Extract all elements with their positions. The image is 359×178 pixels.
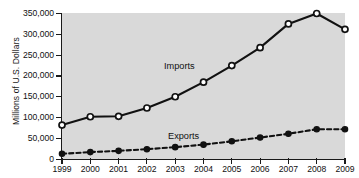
series-label-imports: Imports <box>164 61 195 71</box>
series-markers-imports <box>59 11 348 129</box>
data-point <box>229 63 235 69</box>
data-point <box>201 142 206 147</box>
data-point <box>173 145 178 150</box>
series-line-imports <box>62 14 345 126</box>
y-axis-tick <box>56 96 62 97</box>
data-point <box>59 122 65 128</box>
data-point <box>201 79 207 85</box>
y-axis-tick <box>56 117 62 118</box>
data-point <box>285 21 291 27</box>
data-point <box>88 150 93 155</box>
data-point <box>172 94 178 100</box>
data-point <box>87 114 93 120</box>
data-point <box>258 135 263 140</box>
data-point <box>314 11 320 17</box>
data-point <box>342 26 348 32</box>
y-axis-tick <box>56 75 62 76</box>
data-point <box>229 139 234 144</box>
y-axis-tick <box>56 13 62 14</box>
data-point <box>144 105 150 111</box>
data-point <box>257 45 263 51</box>
data-point <box>59 151 64 156</box>
y-axis-tick <box>56 34 62 35</box>
y-axis-tick <box>56 138 62 139</box>
data-point <box>342 127 347 132</box>
data-point <box>116 148 121 153</box>
data-point <box>116 113 122 119</box>
data-point <box>286 131 291 136</box>
x-axis-tick-label: 2009 <box>328 164 359 174</box>
data-point <box>314 127 319 132</box>
data-point <box>144 147 149 152</box>
y-axis-tick <box>56 55 62 56</box>
series-label-exports: Exports <box>168 131 199 141</box>
